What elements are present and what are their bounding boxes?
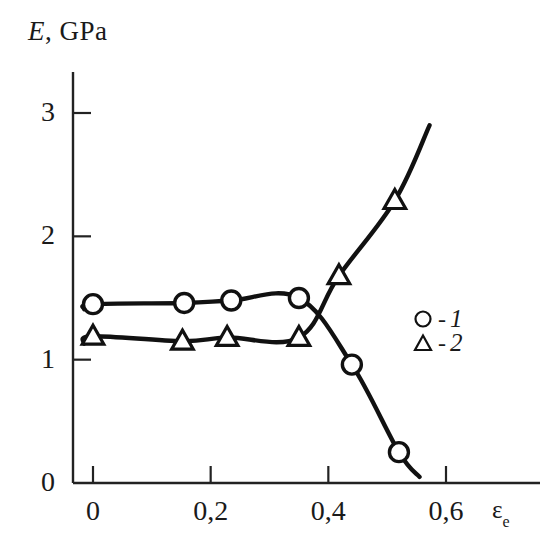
axis-ticks xyxy=(73,113,446,483)
data-series xyxy=(82,125,429,477)
x-tick-label: 0,4 xyxy=(288,497,368,525)
x-tick-label: 0,6 xyxy=(406,497,486,525)
series-1 xyxy=(82,293,419,477)
data-point-circle xyxy=(289,289,308,308)
legend-dash-1: - xyxy=(434,307,450,331)
legend-label-2: 2 xyxy=(450,331,463,355)
circle-marker-icon xyxy=(412,308,434,330)
series-line-1 xyxy=(82,293,419,477)
legend-dash-2: - xyxy=(434,331,450,355)
data-point-circle xyxy=(222,291,241,310)
plot-area xyxy=(0,0,558,555)
y-tick-label: 0 xyxy=(15,468,55,496)
data-point-circle xyxy=(175,293,194,312)
data-point-circle xyxy=(342,355,361,374)
y-tick-label: 2 xyxy=(15,221,55,249)
series-line-2 xyxy=(83,125,430,343)
x-tick-label: 0,2 xyxy=(171,497,251,525)
y-tick-label: 3 xyxy=(15,98,55,126)
legend-label-1: 1 xyxy=(450,307,463,331)
y-tick-label: 1 xyxy=(15,345,55,373)
triangle-marker-icon xyxy=(412,332,434,354)
data-point-circle xyxy=(84,295,103,314)
legend-item-2: - 2 xyxy=(412,331,463,355)
chart-legend: - 1 - 2 xyxy=(412,307,463,355)
legend-item-1: - 1 xyxy=(412,307,463,331)
data-point-circle xyxy=(389,443,408,462)
series-2 xyxy=(83,125,430,343)
chart-figure: E, GPa εe 0123 00,20,40,6 - 1 - 2 xyxy=(0,0,558,555)
data-point-triangle xyxy=(384,190,406,209)
x-tick-label: 0 xyxy=(53,497,133,525)
axis-lines xyxy=(73,72,540,483)
series-markers-2 xyxy=(82,190,405,350)
